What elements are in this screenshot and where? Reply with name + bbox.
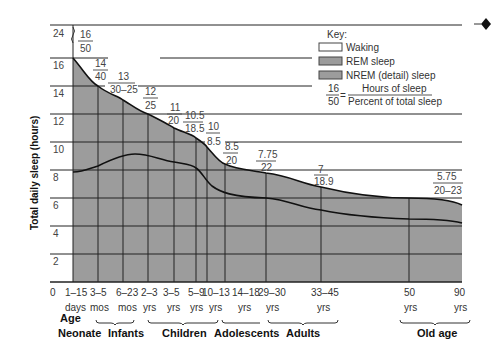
svg-text:yrs: yrs: [404, 302, 417, 313]
svg-text:22: 22: [261, 162, 273, 173]
svg-text:8.5: 8.5: [225, 141, 239, 152]
svg-text:yrs: yrs: [190, 302, 203, 313]
svg-text:16: 16: [80, 29, 92, 40]
svg-text:NREM (detail) sleep: NREM (detail) sleep: [346, 70, 436, 81]
svg-text:50: 50: [328, 96, 340, 107]
svg-text:4: 4: [53, 228, 59, 239]
svg-text:50: 50: [404, 287, 416, 298]
svg-text:18.5: 18.5: [185, 123, 205, 134]
svg-text:yrs: yrs: [143, 302, 156, 313]
age-groups: NeonateInfants ChildrenAdolescents Adult…: [58, 327, 457, 339]
svg-text:14–18: 14–18: [232, 287, 260, 298]
y-axis-ticks: 241614 12108 642: [53, 28, 65, 267]
svg-text:12: 12: [145, 86, 157, 97]
svg-text:5.75: 5.75: [437, 171, 457, 182]
svg-text:Hours of sleep: Hours of sleep: [362, 83, 427, 94]
svg-text:1–15: 1–15: [65, 287, 88, 298]
svg-text:Adolescents: Adolescents: [214, 327, 279, 339]
svg-text:8: 8: [53, 172, 59, 183]
svg-text:3–5: 3–5: [163, 287, 180, 298]
svg-text:Waking: Waking: [346, 42, 379, 53]
svg-text:33–45: 33–45: [311, 287, 339, 298]
svg-text:16: 16: [53, 60, 65, 71]
svg-text:16: 16: [328, 83, 340, 94]
svg-text:11: 11: [170, 102, 181, 113]
svg-text:Key:: Key:: [327, 29, 347, 40]
svg-text:=: =: [340, 90, 346, 101]
svg-text:25: 25: [145, 100, 157, 111]
svg-text:29–30: 29–30: [258, 287, 286, 298]
x-axis-labels: 0 1–15days 3–5mos 6–23mos 2–3yrs 3–5yrs …: [50, 287, 467, 313]
svg-text:Children: Children: [162, 327, 207, 339]
svg-text:Neonate: Neonate: [58, 327, 101, 339]
svg-text:mos: mos: [118, 302, 137, 313]
svg-text:40: 40: [95, 71, 107, 82]
svg-text:3–5: 3–5: [90, 287, 107, 298]
svg-text:20: 20: [168, 115, 180, 126]
legend: Key: Waking REM sleep NREM (detail) slee…: [312, 28, 462, 110]
svg-text:14: 14: [53, 88, 65, 99]
svg-text:12: 12: [53, 116, 65, 127]
svg-text:yrs: yrs: [209, 302, 222, 313]
svg-text:20: 20: [226, 155, 238, 166]
svg-text:50: 50: [80, 43, 92, 54]
svg-text:13: 13: [118, 71, 130, 82]
svg-text:30–25: 30–25: [110, 84, 138, 95]
svg-text:24: 24: [53, 28, 65, 39]
svg-text:yrs: yrs: [317, 302, 330, 313]
svg-text:10.5: 10.5: [185, 110, 205, 121]
svg-text:2: 2: [53, 256, 59, 267]
svg-text:Adults: Adults: [286, 327, 320, 339]
svg-text:18.9: 18.9: [314, 176, 334, 187]
svg-text:6: 6: [53, 200, 59, 211]
svg-text:0: 0: [50, 287, 56, 298]
svg-text:yrs: yrs: [266, 302, 279, 313]
svg-text:REM sleep: REM sleep: [346, 56, 395, 67]
diamond-marker-icon: [481, 18, 491, 30]
age-group-brackets: [96, 320, 470, 325]
y-axis-label: Total daily sleep (hours): [29, 116, 40, 230]
svg-text:yrs: yrs: [167, 302, 180, 313]
svg-text:6–23: 6–23: [116, 287, 139, 298]
svg-text:20–23: 20–23: [434, 185, 462, 196]
x-axis-label: Age: [60, 312, 81, 324]
svg-text:10: 10: [53, 144, 65, 155]
sleep-chart: 241614 12108 642 Total daily sleep (hour…: [0, 0, 493, 364]
svg-text:Percent of total sleep: Percent of total sleep: [348, 96, 442, 107]
svg-text:10: 10: [208, 121, 220, 132]
svg-text:10–13: 10–13: [202, 287, 230, 298]
svg-text:yrs: yrs: [238, 302, 251, 313]
svg-text:14: 14: [95, 58, 107, 69]
svg-text:7.75: 7.75: [258, 149, 278, 160]
svg-text:Infants: Infants: [108, 327, 144, 339]
svg-text:90: 90: [454, 287, 466, 298]
svg-text:mos: mos: [90, 302, 109, 313]
svg-text:7: 7: [318, 164, 324, 175]
svg-text:8.5: 8.5: [207, 136, 221, 147]
svg-text:yrs: yrs: [454, 302, 467, 313]
svg-text:2–3: 2–3: [141, 287, 158, 298]
svg-text:Old age: Old age: [417, 327, 457, 339]
